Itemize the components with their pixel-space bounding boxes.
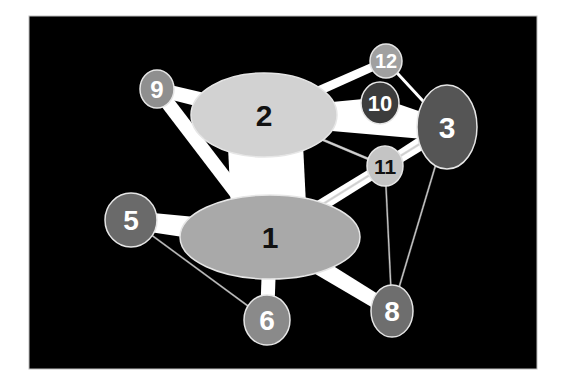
node-3: 3 (417, 85, 477, 169)
node-2: 2 (191, 73, 337, 157)
node-8: 8 (371, 285, 413, 337)
node-5: 5 (105, 193, 157, 247)
node-label: 2 (256, 99, 273, 132)
node-label: 8 (384, 296, 400, 327)
node-9: 9 (140, 70, 174, 108)
node-10: 10 (361, 82, 399, 124)
node-label: 3 (439, 111, 456, 144)
node-12: 12 (370, 44, 402, 78)
node-label: 5 (123, 205, 139, 236)
node-label: 9 (150, 76, 163, 103)
network-diagram: 1235689101112 (0, 0, 563, 383)
node-6: 6 (244, 295, 290, 345)
node-label: 11 (374, 155, 397, 178)
node-11: 11 (367, 146, 403, 186)
node-label: 6 (259, 305, 275, 336)
node-label: 10 (368, 91, 392, 116)
node-label: 12 (375, 50, 397, 72)
node-label: 1 (262, 221, 279, 254)
node-1: 1 (180, 195, 360, 279)
